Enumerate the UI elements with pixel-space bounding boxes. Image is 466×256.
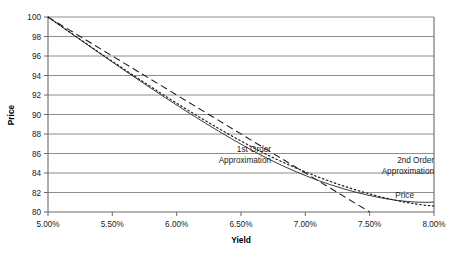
x-tick-label-650: 6.50% [229,220,252,229]
y-tick-label-92: 92 [32,91,42,100]
y-tick-label-82: 82 [32,189,42,198]
y-tick-label-80: 80 [32,208,42,217]
x-tick-label-750: 7.50% [358,220,381,229]
x-tick-label-800: 8.00% [422,220,445,229]
y-tick-label-94: 94 [32,72,42,81]
x-axis-title: Yield [231,235,251,245]
x-tick-label-700: 7.00% [294,220,317,229]
chart-background [0,0,466,256]
y-tick-label-90: 90 [32,111,42,120]
y-axis-title: Price [6,104,16,125]
annotation-1st-order-line1: 1st Order [237,145,271,154]
y-tick-label-88: 88 [32,130,42,139]
y-tick-label-86: 86 [32,150,42,159]
annotation-2nd-order-line1: 2nd Order [397,156,434,165]
annotation-price: Price [395,191,414,200]
annotation-price-line1: Price [395,191,414,200]
x-tick-label-550: 5.50% [101,220,124,229]
x-tick-label-500: 5.00% [36,220,59,229]
chart-container: 100 98 96 94 92 90 88 86 84 82 80 5.00% … [0,0,466,256]
x-tick-label-600: 6.00% [165,220,188,229]
annotation-2nd-order-line2: Approximation [382,167,435,176]
y-tick-label-96: 96 [32,52,42,61]
annotation-1st-order-line2: Approximation [219,156,272,165]
price-yield-chart: 100 98 96 94 92 90 88 86 84 82 80 5.00% … [0,0,466,256]
y-tick-label-84: 84 [32,169,42,178]
y-tick-label-98: 98 [32,33,42,42]
y-tick-label-100: 100 [27,13,41,22]
